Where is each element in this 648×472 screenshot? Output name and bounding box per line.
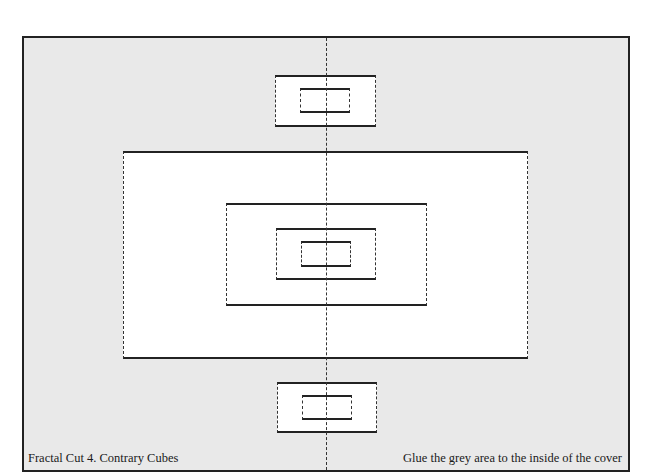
top-cube-inner [300,88,350,113]
bottom-cube-inner [302,395,352,420]
glue-area-frame: Fractal Cut 4. Contrary Cubes Glue the g… [22,36,630,472]
glue-instruction: Glue the grey area to the inside of the … [403,451,622,466]
center-fold-line [326,38,327,470]
diagram-title: Fractal Cut 4. Contrary Cubes [28,451,178,466]
